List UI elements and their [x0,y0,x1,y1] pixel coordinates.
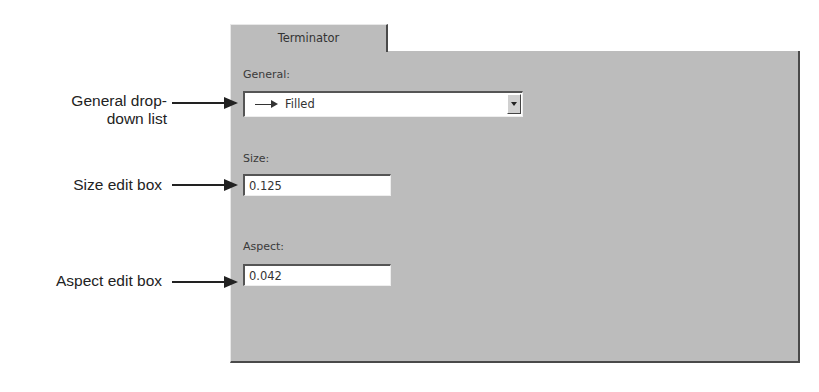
callout-general-line1: General drop- [20,92,167,110]
size-label: Size: [243,152,269,165]
tab-label: Terminator [231,31,386,45]
general-dropdown-value: Filled [285,97,315,111]
filled-arrowhead-icon [271,100,278,108]
aspect-edit-box[interactable]: 0.042 [243,264,391,286]
arrow-icon [172,184,236,186]
arrow-icon [172,281,236,283]
size-edit-box[interactable]: 0.125 [243,174,391,196]
callout-aspect: Aspect edit box [10,272,162,290]
callout-general-line2: down list [20,110,167,128]
tab-terminator[interactable]: Terminator [230,24,388,52]
general-dropdown[interactable]: Filled [243,91,523,117]
chevron-down-icon [511,102,517,106]
dropdown-button[interactable] [507,94,521,114]
arrow-icon [172,102,236,104]
aspect-label: Aspect: [243,240,284,253]
callout-size: Size edit box [20,176,162,194]
general-label: General: [243,68,290,81]
callout-general: General drop- down list [20,92,167,128]
